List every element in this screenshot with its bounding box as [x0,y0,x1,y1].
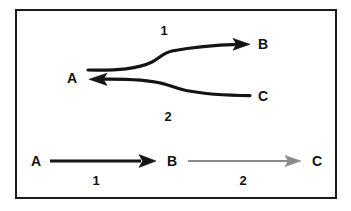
diagram-figure: A B C 1 2 A B C 1 2 [0,0,351,211]
diagram-canvas [0,0,351,211]
node-label-b-curved: B [258,37,268,51]
node-label-a-curved: A [67,71,77,85]
node-label-c-linear: C [312,154,322,168]
canvas-background [0,0,351,211]
node-label-b-linear: B [167,154,177,168]
step-label-upper-1: 1 [160,24,167,37]
step-label-lower-2: 2 [164,110,171,123]
step-label-linear-2: 2 [239,174,246,187]
node-label-c-curved: C [258,89,268,103]
step-label-linear-1: 1 [92,174,99,187]
node-label-a-linear: A [31,154,41,168]
